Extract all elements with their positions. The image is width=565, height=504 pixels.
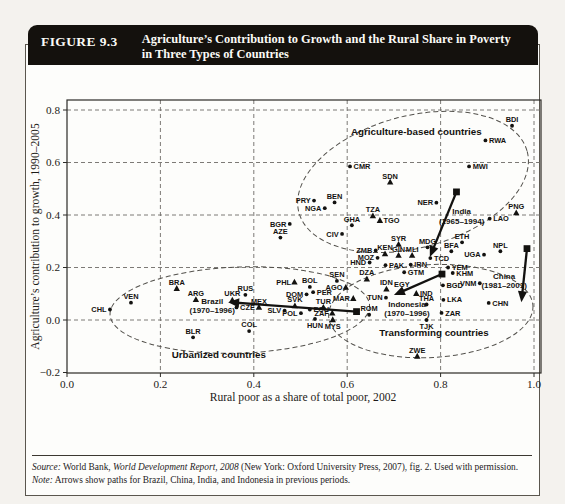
note-line: Note: Arrows show paths for Brazil, Chin… [32, 474, 532, 487]
country-label: ZWE [409, 346, 425, 355]
country-marker-dot [367, 313, 371, 317]
country-label: BDI [506, 115, 519, 124]
country-label: SLV [267, 306, 281, 315]
x-tick-label: 1.0 [527, 378, 541, 390]
path-label: China(1981–2001) [481, 272, 527, 290]
cluster-label: Urbanized countries [172, 349, 267, 360]
point-BFA: BFA [444, 241, 459, 254]
country-label: IDN [380, 278, 393, 287]
x-tick-label: 0.0 [60, 378, 74, 390]
country-marker-dot [487, 301, 491, 305]
y-tick-label: 0.8 [46, 104, 60, 116]
country-label: MLI [406, 245, 419, 254]
country-marker-dot [288, 222, 292, 226]
x-tick-label: 0.6 [340, 378, 354, 390]
point-MWI: MWI [467, 162, 488, 171]
point-SDN: SDN [382, 172, 398, 185]
country-label: ARG [188, 289, 205, 298]
point-MLI: MLI [406, 245, 419, 258]
country-label: UGA [464, 250, 481, 259]
country-label: HND [350, 258, 367, 267]
country-marker-dot [376, 256, 380, 260]
country-label: RUS [238, 284, 254, 293]
country-label: DOM [286, 290, 303, 299]
source-book-title: World Development Report, 2008 [113, 462, 239, 472]
country-label: VEN [123, 292, 138, 301]
country-marker-dot [484, 139, 488, 143]
country-marker-triangle [377, 217, 383, 223]
country-marker-dot [247, 329, 251, 333]
point-LKA: LKA [442, 295, 463, 304]
country-marker-dot [279, 236, 283, 240]
country-label: LAO [493, 214, 509, 223]
country-label: BOL [302, 276, 318, 285]
point-IDN: IDN [380, 278, 393, 291]
point-NER: NER [417, 198, 438, 207]
point-PNG: PNG [508, 202, 524, 215]
y-axis-title: Agriculture’s contribution to growth, 19… [29, 123, 42, 350]
country-label: TJK [420, 322, 435, 331]
country-label: EGY [394, 280, 410, 289]
y-tick-label: −0.2 [40, 366, 60, 378]
point-TGO: TGO [377, 216, 400, 225]
source-note-block: Source: World Bank, World Development Re… [32, 455, 532, 487]
point-ROM: ROM [361, 304, 378, 317]
point-DOM: DOM [286, 290, 309, 299]
note-text: Arrows show paths for Brazil, China, Ind… [53, 475, 350, 485]
figure-title-line1: Agriculture’s Contribution to Growth and… [142, 32, 511, 47]
point-BEN: BEN [327, 192, 343, 205]
country-label: PHL [276, 278, 291, 287]
country-label: ETH [455, 232, 470, 241]
source-label: Source: [32, 462, 61, 472]
country-label: BEN [327, 192, 343, 201]
country-label: CIV [326, 230, 338, 239]
x-tick-label: 0.8 [434, 378, 448, 390]
country-marker-dot [235, 306, 239, 310]
country-label: CHL [91, 305, 107, 314]
country-label: HUN [307, 321, 323, 330]
country-marker-dot [299, 311, 303, 315]
country-label: POL [282, 309, 298, 318]
country-marker-dot [312, 199, 316, 203]
country-marker-dot [368, 261, 372, 265]
country-marker-dot [348, 165, 352, 169]
country-label: MWI [473, 162, 488, 171]
country-label: MAR [333, 294, 350, 303]
country-marker-dot [308, 285, 312, 289]
country-marker-dot [467, 165, 471, 169]
country-label: PNG [508, 202, 524, 211]
country-marker-dot [409, 263, 413, 267]
country-marker-triangle [350, 295, 356, 301]
country-label: KEN [377, 243, 393, 252]
country-marker-dot [428, 256, 432, 260]
figure-title: Agriculture’s Contribution to Growth and… [118, 25, 511, 61]
country-label: BLR [185, 327, 201, 336]
country-marker-triangle [291, 279, 297, 285]
country-marker-dot [446, 266, 450, 270]
point-BOL: BOL [302, 276, 318, 288]
country-marker-dot [510, 124, 514, 128]
tick-labels: 0.00.20.40.60.81.00.80.60.40.20.0−0.2 [40, 104, 542, 390]
country-marker-dot [488, 217, 492, 221]
figure-header: FIGURE 9.3 Agriculture’s Contribution to… [28, 25, 538, 65]
country-marker-dot [340, 232, 344, 236]
point-NGA: NGA [305, 204, 327, 213]
source-post: (New York: Oxford University Press, 2007… [239, 462, 518, 472]
country-label: TUN [367, 293, 382, 302]
country-marker-dot [333, 201, 337, 205]
point-VEN: VEN [123, 292, 138, 304]
path-china: China(1981–2001) [481, 245, 530, 302]
country-label: BRA [169, 278, 186, 287]
point-CMR: CMR [348, 162, 371, 171]
country-marker-dot [384, 263, 388, 267]
cluster-label: Agriculture-based countries [351, 126, 482, 137]
point-MYS: MYS [325, 316, 341, 331]
point-AGO: AGO [326, 283, 349, 292]
path-start-square [439, 271, 446, 278]
country-marker-dot [350, 223, 354, 227]
scanned-book-page: { "figure": { "label": "FIGURE 9.3", "ti… [0, 0, 565, 504]
point-COL: COL [241, 320, 257, 333]
country-label: ZAR [445, 309, 461, 318]
point-TUN: TUN [367, 293, 388, 302]
country-marker-dot [460, 240, 464, 244]
